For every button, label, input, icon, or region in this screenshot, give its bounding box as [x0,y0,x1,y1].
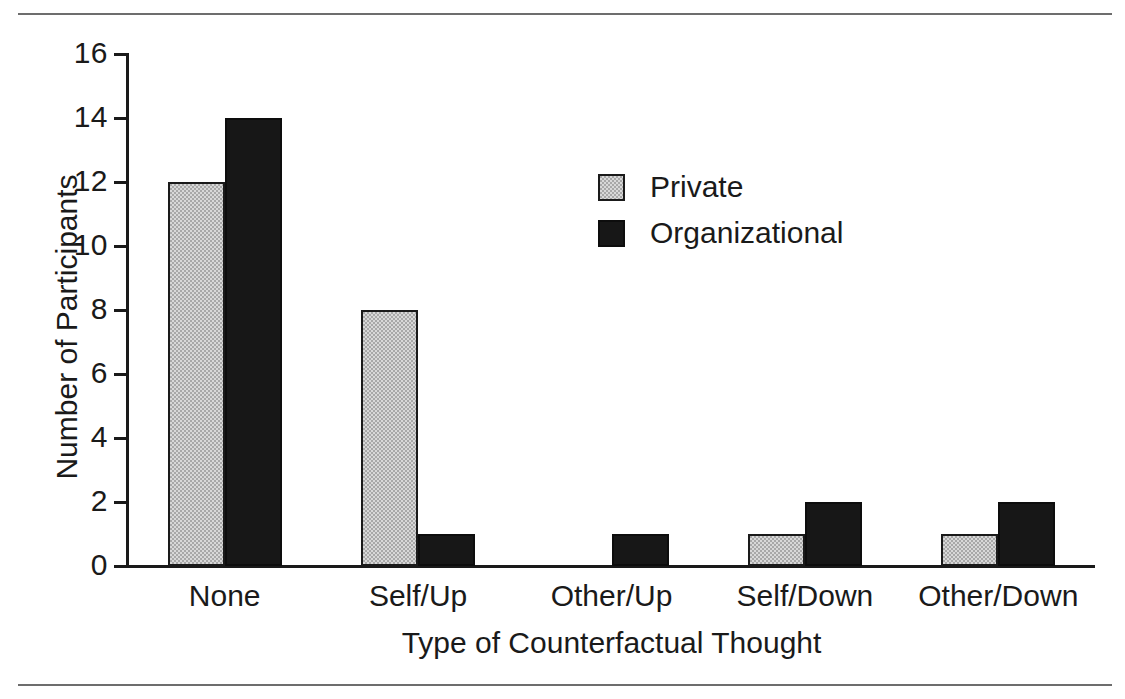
y-axis-tick [114,309,127,312]
y-axis-tick [114,373,127,376]
x-axis-tick-label-self-down: Self/Down [695,578,915,614]
bar-none-private [168,182,225,566]
bar-other-up-organizational [612,534,669,566]
y-axis-tick-label: 16 [40,38,108,68]
chart-legend: PrivateOrganizational [598,172,843,264]
legend-label: Organizational [650,218,843,248]
bar-self-up-private [361,310,418,566]
legend-label: Private [650,172,743,202]
x-axis-tick-label-none: None [115,578,335,614]
x-axis-title: Type of Counterfactual Thought [128,626,1095,660]
x-axis-tick-label-other-up: Other/Up [502,578,722,614]
legend-item-private: Private [598,172,843,202]
x-axis-tick-label-self-up: Self/Up [308,578,528,614]
legend-swatch-organizational-icon [598,220,625,247]
bar-self-down-private [748,534,805,566]
y-axis-tick [114,501,127,504]
bar-self-down-organizational [805,502,862,566]
bar-self-up-organizational [418,534,475,566]
y-axis-tick [114,181,127,184]
y-axis-tick [114,565,127,568]
x-axis-tick-label-other-down: Other/Down [888,578,1108,614]
y-axis-tick [114,245,127,248]
legend-item-organizational: Organizational [598,218,843,248]
y-axis-tick [114,117,127,120]
y-axis-title: Number of Participants [50,67,84,587]
bar-other-down-private [941,534,998,566]
bar-chart: 0246810121416 NoneSelf/UpOther/UpSelf/Do… [0,0,1125,699]
y-axis-tick [114,53,127,56]
bar-none-organizational [225,118,282,566]
legend-swatch-private-icon [598,174,625,201]
bar-other-down-organizational [998,502,1055,566]
y-axis-tick [114,437,127,440]
